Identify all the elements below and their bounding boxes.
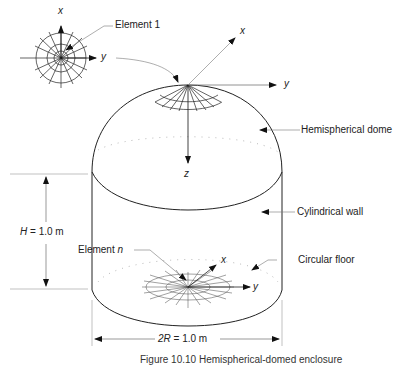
dome-y-axis-label: y: [284, 78, 289, 89]
element-n-leader: [134, 250, 186, 280]
dome-x-axis-label: x: [240, 25, 245, 36]
floor-x-axis-label: x: [221, 254, 226, 265]
element-1-label: Element 1: [115, 19, 160, 30]
diameter-var: 2R: [158, 333, 171, 344]
inset-y-axis-label: y: [101, 51, 106, 62]
element-n-label: Element n: [78, 244, 123, 255]
diameter-value: = 1.0 m: [171, 333, 207, 344]
circular-floor-label: Circular floor: [298, 254, 355, 265]
element-1-inset-mesh: [20, 32, 87, 88]
dome-apex-mesh: [155, 85, 222, 111]
cylinder-bottom-front-edge: [92, 290, 282, 326]
cylindrical-wall-label: Cylindrical wall: [297, 206, 363, 217]
element-n-var: n: [117, 244, 123, 255]
figure-caption: Figure 10.10 Hemispherical-domed enclosu…: [140, 354, 342, 365]
element-n-prefix: Element: [78, 244, 117, 255]
hemispherical-dome-outline: [92, 85, 282, 172]
floor-y-axis-label: y: [253, 281, 258, 292]
height-dimension-label: H = 1.0 m: [20, 226, 64, 237]
dome-z-axis-label: z: [184, 168, 189, 179]
height-value: = 1.0 m: [27, 226, 63, 237]
inset-x-axis-label: x: [58, 5, 63, 16]
diameter-dimension-label: 2R = 1.0 m: [158, 333, 207, 344]
floor-element-mesh: [142, 270, 234, 308]
floor-leader: [252, 260, 277, 270]
hemispherical-dome-label: Hemispherical dome: [301, 124, 392, 135]
dome-x-axis-arrow: [188, 38, 235, 85]
inset-to-dome-curved-arrow: [116, 58, 178, 82]
